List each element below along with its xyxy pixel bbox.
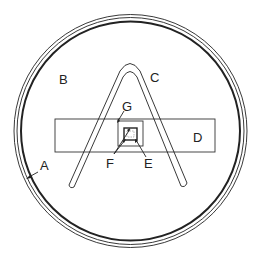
- diagram-canvas: A B C D E F G: [0, 0, 259, 263]
- label-F: F: [106, 156, 114, 171]
- label-C: C: [150, 70, 159, 85]
- hairpin-right-end: [181, 183, 187, 187]
- label-B: B: [59, 72, 68, 87]
- label-D: D: [193, 130, 202, 145]
- hairpin-left-end: [69, 185, 74, 188]
- label-G: G: [122, 99, 132, 114]
- label-E: E: [144, 156, 153, 171]
- label-A: A: [40, 158, 49, 173]
